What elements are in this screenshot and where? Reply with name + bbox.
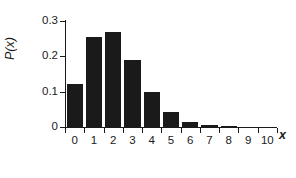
bar (221, 126, 237, 127)
x-axis-tick-label: 3 (122, 135, 142, 147)
x-axis-tick-label: 6 (180, 135, 200, 147)
y-axis-tick-label: 0 (28, 121, 58, 133)
bar-series (65, 21, 277, 127)
bar (144, 92, 160, 127)
x-axis-tick-label: 1 (84, 135, 104, 147)
bar (124, 60, 140, 127)
bar (67, 84, 83, 127)
x-axis-tick (181, 128, 182, 133)
x-axis-tick-label: 0 (65, 135, 85, 147)
x-axis-line (65, 127, 277, 128)
bar (182, 122, 198, 127)
x-axis-tick (84, 128, 85, 133)
x-axis-tick (258, 128, 259, 133)
x-axis-tick-label: 9 (238, 135, 258, 147)
x-axis-tick (238, 128, 239, 133)
bar (86, 37, 102, 127)
bar (201, 125, 217, 127)
x-axis-tick-label: 8 (219, 135, 239, 147)
x-axis-title: x (279, 128, 286, 142)
chart-screenshot: 0.30.20.10 012345678910 P(x) x (0, 0, 296, 178)
x-axis-tick (65, 128, 66, 133)
x-axis-tick-label: 5 (161, 135, 181, 147)
x-axis-tick (142, 128, 143, 133)
y-axis-tick-labels: 0.30.20.10 (25, 0, 58, 178)
y-axis-tick-label: 0.1 (28, 86, 58, 98)
x-axis-tick (219, 128, 220, 133)
y-axis-title: P(x) (3, 37, 17, 60)
x-axis-tick (200, 128, 201, 133)
x-axis-tick-label: 7 (200, 135, 220, 147)
bar (105, 32, 121, 127)
x-axis-tick (161, 128, 162, 133)
y-axis-tick-label: 0.3 (28, 15, 58, 27)
x-axis-tick (277, 128, 278, 133)
x-axis-tick (104, 128, 105, 133)
x-axis-tick (123, 128, 124, 133)
y-axis-tick-label: 0.2 (28, 50, 58, 62)
x-axis-tick-label: 10 (257, 135, 277, 147)
x-axis-tick-label: 4 (142, 135, 162, 147)
x-axis-tick-label: 2 (103, 135, 123, 147)
bar (163, 112, 179, 127)
